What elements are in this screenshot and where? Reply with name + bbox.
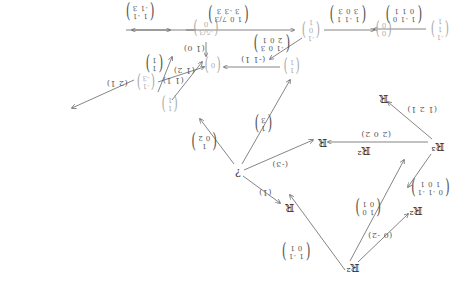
matrix-rows: 1 -1 00 1 1 [392,7,415,23]
matrix-row: 1 [437,25,444,33]
matrix-row: 1 [152,64,157,72]
node-v-far-right: (-111) [430,17,451,41]
edge-label: (1 0 7/33 -3 3) [206,5,251,25]
edge-label: (1 -1-1 3) [124,2,156,22]
edge-label: (1 00 1) [353,198,382,218]
left-paren: ( [267,114,272,134]
edge-label: (10 2) [189,132,218,152]
matrix-rows: 1 -1-1 3 [132,4,148,20]
right-paren: ) [330,5,335,25]
matrix-row: 0 -1 -1 [417,188,443,196]
matrix-row: 0 1 [362,200,375,208]
edge-label: (0 -1 -11 0 1) [409,178,451,198]
node-v-zero-center: (0) [204,56,223,74]
edge-label: (-3) [272,160,288,169]
edge-label: (1) [259,188,272,197]
matrix-row: 0 [211,61,215,69]
edge-label: (-1 0 32 0 1) [252,34,292,54]
matrix-row: 1 0 1 [417,180,443,188]
left-paren: ( [217,56,221,74]
matrix: (0 -1 -11 0 1) [409,178,451,198]
matrix-row: 1 [290,66,294,74]
matrix-row: 1 -1 0 [392,15,415,23]
matrix-rows: -111 [437,17,444,41]
matrix-row: 1 -1 1 [336,15,359,23]
matrix: (11) [161,95,180,113]
right-paren: ) [282,242,287,262]
matrix-row: 1 [290,58,294,66]
right-paren: ) [376,20,380,38]
matrix-rows: 11 [168,96,172,112]
left-paren: ( [445,178,450,198]
node-v-11: (11) [161,95,180,113]
node-R-mid: ℝ [318,136,327,149]
right-paren: ) [284,57,288,75]
edge-label: (1 -1 13 0 3) [328,5,368,25]
matrix-rows: -1 0 32 0 1 [260,36,283,52]
node-v-top-right: (-101) [301,18,322,42]
left-paren: ( [244,5,249,25]
right-paren: ) [205,56,209,74]
right-paren: ) [194,19,198,37]
matrix: (-111) [430,17,451,41]
matrix-rows: -101 [308,18,315,42]
matrix-row: -1 0 3 [260,44,283,52]
matrix-rows: 1 00 1 [362,200,375,216]
edge-label: (1 0) [183,44,204,53]
matrix-row: 1 [168,96,172,104]
matrix-row: -5/3 [199,28,213,36]
node-R2-left: ℝ² [409,204,423,217]
left-paren: ( [316,21,320,39]
edge-label: (2 0 2) [361,130,391,139]
matrix: (10 2) [189,132,218,152]
node-R-bottom: ℝ [285,201,294,214]
left-paren: ( [285,34,290,54]
matrix-row: 1 0 [362,208,375,216]
matrix-row: -1 3 [132,4,148,12]
matrix-rows: 1 -10 1 [288,244,304,260]
node-R3: ℝ³ [431,140,445,153]
node-question: ? [235,166,241,179]
matrix-row: 3 -3 3 [214,7,242,15]
left-paren: ( [174,95,178,113]
edge-label: (2 1) [106,79,127,88]
matrix-row: 0 [382,29,386,37]
matrix-rows: 1 -1 13 0 3 [336,7,359,23]
matrix-row: 0 1 [288,244,304,252]
left-paren: ( [151,73,155,91]
node-R-left: ℝ [379,92,388,105]
edge-label: (1 1) [162,76,183,85]
matrix-row: 1 [152,56,157,64]
edge-label: (13) [252,114,274,134]
matrix: (-1 0 32 0 1) [252,34,292,54]
right-paren: ) [191,132,196,152]
matrix-rows: 1 0 7/33 -3 3 [214,7,242,23]
matrix-row: 1 [261,124,266,132]
right-paren: ) [302,21,306,39]
matrix-rows: 11 [290,58,294,74]
left-paren: ( [212,132,217,152]
right-paren: ) [254,34,259,54]
matrix-row: 0 2 [198,134,211,142]
right-paren: ) [410,178,415,198]
matrix-row: 1 0 7/3 [214,15,242,23]
edge-label: (1 -10 1) [280,242,312,262]
matrix: (0) [204,56,223,74]
matrix-rows: 13 [261,116,266,132]
matrix-row: -1 [308,34,315,42]
edge-label: (1 2) [173,66,194,75]
matrix-row: 1 [437,17,444,25]
matrix-row: 0 [308,26,315,34]
matrix-row: 1 -1 [132,12,148,20]
matrix-row: -1 [143,82,150,90]
edge-label: (1 2 1) [407,105,437,114]
right-paren: ) [355,198,360,218]
right-paren: ) [162,95,166,113]
matrix: (1 -10 1) [280,242,312,262]
matrix-row: 1 [198,142,211,150]
matrix-row: 1 [168,104,172,112]
right-paren: ) [126,2,131,22]
matrix: (1 0 7/33 -3 3) [206,5,251,25]
